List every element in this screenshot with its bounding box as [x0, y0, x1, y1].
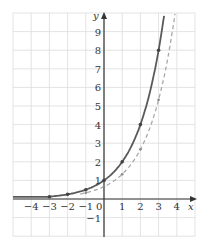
dashed-curve-point: [103, 185, 106, 188]
axes: x y: [13, 10, 197, 237]
dashed-curve-point: [157, 99, 160, 102]
tick-labels: −4−3−2−101234−1123456789: [24, 27, 180, 224]
solid-curve-point: [139, 123, 143, 127]
y-tick-label: 5: [95, 101, 101, 112]
x-tick-label: 1: [119, 201, 125, 212]
y-tick-label: 7: [95, 64, 101, 75]
x-tick-label: 3: [155, 201, 161, 212]
x-tick-label: −3: [42, 201, 57, 212]
dashed-curve-point: [121, 173, 124, 176]
solid-curve-point: [102, 179, 106, 183]
exponential-chart: x y −4−3−2−101234−1123456789: [0, 0, 207, 244]
x-tick-label: 2: [137, 201, 143, 212]
y-tick-label: 1: [95, 175, 101, 186]
solid-curve-point: [84, 188, 88, 192]
y-tick-label: 8: [95, 45, 101, 56]
y-tick-label: 2: [95, 157, 101, 168]
x-tick-label: −4: [24, 201, 39, 212]
solid-curve-point: [66, 193, 70, 197]
y-tick-label: 9: [95, 27, 101, 38]
solid-curve-point: [157, 48, 161, 52]
x-tick-label: −1: [78, 201, 93, 212]
dashed-curve-point: [85, 192, 88, 195]
x-tick-label: 4: [174, 201, 180, 212]
x-tick-label: −2: [60, 201, 75, 212]
dashed-curve-point: [139, 148, 142, 151]
y-tick-label: 4: [95, 120, 101, 131]
y-tick-label: −1: [86, 213, 101, 224]
y-tick-label: 6: [95, 82, 101, 93]
solid-curve-point: [120, 160, 124, 164]
x-tick-label: 0: [96, 201, 102, 212]
x-axis-label: x: [188, 201, 194, 212]
y-axis-label: y: [92, 10, 99, 21]
y-tick-label: 3: [95, 138, 101, 149]
solid-curve-point: [48, 195, 52, 199]
